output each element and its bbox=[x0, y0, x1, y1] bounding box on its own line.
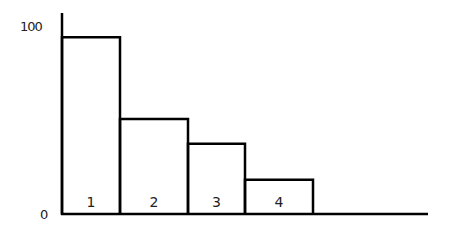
bar-label: 2 bbox=[150, 194, 159, 210]
bar-1 bbox=[62, 37, 120, 214]
y-tick-max: 100 bbox=[20, 19, 43, 34]
bar-label: 4 bbox=[275, 194, 284, 210]
bar-chart: 1234 100 0 bbox=[0, 0, 449, 228]
bar-label: 3 bbox=[212, 194, 221, 210]
bars: 1234 bbox=[62, 37, 313, 214]
bar-label: 1 bbox=[87, 194, 96, 210]
y-tick-min: 0 bbox=[40, 207, 48, 222]
